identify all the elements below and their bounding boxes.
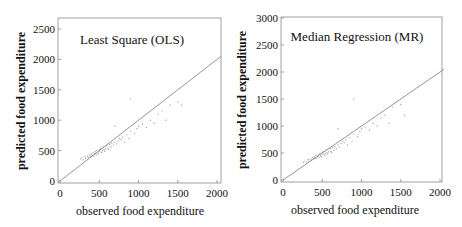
- data-point: [359, 131, 360, 132]
- y-tick-label: 2500: [256, 39, 279, 51]
- ols-chart: 05001000150020002500 0500100015002000 Le…: [0, 0, 231, 227]
- data-point: [108, 149, 109, 150]
- data-point: [109, 144, 110, 145]
- data-point: [314, 156, 315, 157]
- y-tick-label: 3000: [256, 12, 279, 24]
- data-point: [327, 153, 328, 154]
- data-point: [344, 142, 345, 143]
- ols-y-axis-ticks: 05001000150020002500: [33, 23, 61, 187]
- data-point: [102, 150, 103, 151]
- ols-reference-line: [60, 56, 221, 181]
- data-point: [98, 154, 99, 155]
- data-point: [181, 104, 182, 105]
- data-point: [337, 144, 338, 145]
- mr-chart: 050010001500200025003000 050010001500200…: [231, 0, 462, 227]
- data-point: [373, 123, 374, 124]
- data-point: [154, 123, 155, 124]
- data-point: [303, 162, 304, 163]
- x-tick-label: 500: [91, 187, 108, 199]
- data-point: [104, 151, 105, 152]
- data-point: [121, 139, 122, 140]
- data-point: [117, 140, 118, 141]
- data-point: [103, 149, 104, 150]
- data-point: [157, 113, 158, 114]
- data-point: [87, 155, 88, 156]
- data-point: [107, 148, 108, 149]
- data-point: [347, 144, 348, 145]
- data-point: [404, 115, 405, 116]
- data-point: [169, 104, 170, 105]
- y-tick-label: 2000: [33, 53, 56, 65]
- data-point: [114, 126, 115, 127]
- data-point: [332, 147, 333, 148]
- data-point: [138, 126, 139, 127]
- data-point: [92, 152, 93, 153]
- y-tick-label: 0: [273, 174, 279, 186]
- data-point: [392, 106, 393, 107]
- y-tick-label: 0: [50, 175, 56, 187]
- data-point: [134, 133, 135, 134]
- data-point: [322, 154, 323, 155]
- data-point: [345, 139, 346, 140]
- data-point: [349, 137, 350, 138]
- ols-x-axis-label: observed food expenditure: [76, 204, 204, 218]
- data-point: [99, 151, 100, 152]
- data-point: [353, 98, 354, 99]
- y-tick-label: 2000: [256, 66, 279, 78]
- y-tick-label: 2500: [33, 23, 56, 35]
- data-point: [318, 157, 319, 158]
- data-point: [130, 130, 131, 131]
- data-point: [312, 157, 313, 158]
- mr-y-axis-ticks: 050010001500200025003000: [256, 12, 284, 186]
- y-tick-label: 1000: [33, 114, 56, 126]
- data-point: [128, 138, 129, 139]
- x-tick-label: 0: [57, 187, 63, 199]
- data-point: [89, 154, 90, 155]
- ols-y-axis-label: predicted food expenditure: [14, 31, 28, 170]
- data-point: [150, 120, 151, 121]
- data-point: [316, 158, 317, 159]
- mr-chart-title: Median Regression (MR): [291, 29, 424, 44]
- data-point: [328, 151, 329, 152]
- data-point: [88, 157, 89, 158]
- data-point: [116, 143, 117, 144]
- data-point: [119, 138, 120, 139]
- data-point: [114, 141, 115, 142]
- ols-chart-title: Least Square (OLS): [80, 32, 184, 47]
- data-point: [136, 128, 137, 129]
- data-point: [361, 128, 362, 129]
- y-tick-label: 1000: [256, 120, 279, 132]
- data-point: [85, 158, 86, 159]
- data-point: [353, 133, 354, 134]
- ols-scatter-points: [80, 98, 183, 160]
- data-point: [388, 123, 389, 124]
- y-tick-label: 500: [39, 145, 56, 157]
- data-point: [110, 146, 111, 147]
- data-point: [337, 128, 338, 129]
- data-point: [146, 127, 147, 128]
- y-tick-label: 1500: [33, 84, 56, 96]
- data-point: [81, 157, 82, 158]
- data-point: [142, 123, 143, 124]
- x-tick-label: 2000: [429, 186, 452, 198]
- data-point: [91, 154, 92, 155]
- mr-y-axis-label: predicted food expenditure: [235, 30, 249, 169]
- data-point: [96, 150, 97, 151]
- data-point: [130, 98, 131, 99]
- data-point: [177, 101, 178, 102]
- data-point: [307, 159, 308, 160]
- data-point: [95, 154, 96, 155]
- data-point: [377, 125, 378, 126]
- data-point: [324, 155, 325, 156]
- data-point: [84, 156, 85, 157]
- mr-x-axis-label: observed food expenditure: [291, 203, 419, 217]
- data-point: [126, 134, 127, 135]
- data-point: [336, 148, 337, 149]
- data-point: [334, 146, 335, 147]
- data-point: [165, 120, 166, 121]
- data-point: [304, 160, 305, 161]
- mr-reference-line: [283, 69, 444, 180]
- y-tick-label: 1500: [256, 93, 279, 105]
- data-point: [351, 140, 352, 141]
- x-tick-label: 1000: [128, 187, 151, 199]
